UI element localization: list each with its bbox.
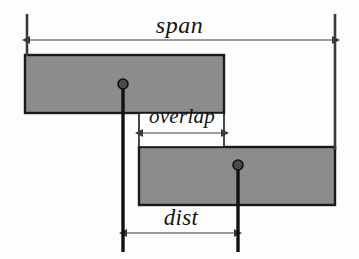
overlap-label: overlap — [140, 106, 224, 127]
lower-midpoint-dot — [233, 160, 243, 170]
upper-midpoint-dot — [118, 79, 128, 89]
span-label: span — [0, 13, 359, 37]
interval-relations-diagram: span overlap dist — [0, 0, 359, 259]
dist-label: dist — [124, 206, 238, 229]
